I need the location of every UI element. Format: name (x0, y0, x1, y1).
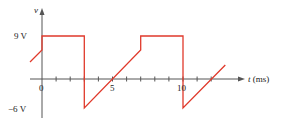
x-tick-label-10: 10 (177, 83, 187, 93)
waveform-chart: v 9 V −6 V 0 5 10 t (ms) (0, 0, 281, 127)
y-tick-label-low: −6 V (8, 104, 27, 114)
x-axis-arrow-icon (238, 77, 245, 82)
y-tick-label-high: 9 V (14, 31, 28, 41)
axes (30, 8, 245, 118)
x-tick-label-0: 0 (39, 83, 44, 93)
y-axis-label: v (34, 5, 38, 15)
signal-waveform (30, 36, 225, 108)
x-axis-label: t (ms) (248, 74, 269, 84)
x-tick-label-5: 5 (110, 83, 115, 93)
y-axis-arrow-icon (40, 8, 45, 15)
